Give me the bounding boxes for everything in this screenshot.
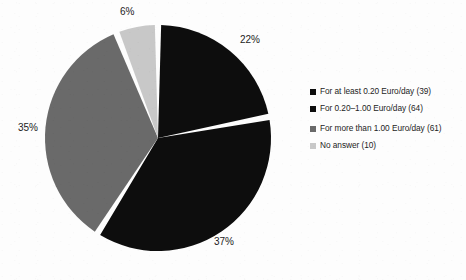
legend-item-label: No answer (10) [320, 140, 376, 151]
legend-swatch-icon [310, 106, 316, 112]
pie-chart-area: 22% 37% 35% 6% [0, 0, 300, 280]
chart-legend: For at least 0.20 Euro/day (39) For 0.20… [310, 86, 462, 156]
legend-item-label: For more than 1.00 Euro/day (61) [320, 123, 442, 134]
legend-item: For at least 0.20 Euro/day (39) [310, 86, 462, 97]
legend-item: For 0.20–1.00 Euro/day (64) [310, 103, 462, 114]
legend-swatch-icon [310, 89, 316, 95]
legend-swatch-icon [310, 126, 316, 132]
slice-label-35: 35% [18, 122, 38, 133]
legend-item-label: For at least 0.20 Euro/day (39) [320, 86, 431, 97]
slice-label-37: 37% [214, 236, 234, 247]
legend-item-label: For 0.20–1.00 Euro/day (64) [320, 103, 423, 114]
slice-label-6: 6% [120, 6, 134, 17]
slice-label-22: 22% [240, 34, 260, 45]
legend-item: For more than 1.00 Euro/day (61) [310, 123, 462, 134]
legend-item: No answer (10) [310, 140, 462, 151]
legend-swatch-icon [310, 143, 316, 149]
